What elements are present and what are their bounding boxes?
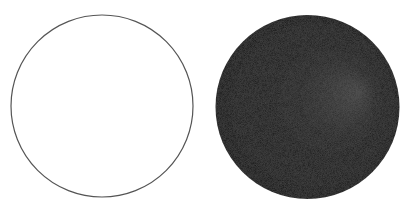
outline-circle (11, 15, 193, 197)
shaded-sphere (216, 15, 400, 199)
figure-canvas (0, 0, 411, 215)
circles-figure (0, 0, 411, 215)
